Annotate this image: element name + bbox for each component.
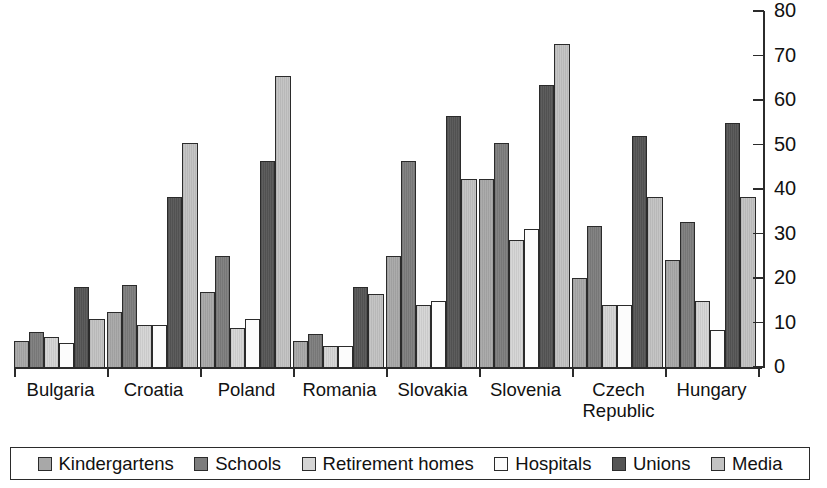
bar [665, 260, 680, 368]
bar [74, 287, 89, 368]
x-axis-category-label: Poland [200, 379, 293, 421]
bar [587, 226, 602, 368]
bar [368, 294, 383, 368]
legend-swatch-icon [302, 457, 316, 471]
bar [182, 143, 197, 368]
legend-swatch-icon [38, 457, 52, 471]
bar [275, 76, 290, 369]
bar [572, 278, 587, 368]
y-axis-tick [753, 366, 764, 368]
bar [461, 179, 476, 368]
y-axis-tick [753, 144, 764, 146]
category-label-line: Slovakia [398, 379, 468, 400]
bar [152, 325, 167, 368]
bar-group [572, 8, 665, 368]
legend-item[interactable]: Unions [612, 454, 691, 474]
y-axis-tick-label: 0 [774, 356, 785, 376]
category-label-line: Slovenia [490, 379, 561, 400]
bar [509, 240, 524, 368]
bar [710, 330, 725, 368]
x-axis-category-label: Slovenia [479, 379, 572, 421]
bar [416, 305, 431, 368]
y-axis-tick-label: 10 [774, 312, 796, 332]
bar [386, 256, 401, 369]
bar-group [293, 8, 386, 368]
bar [323, 346, 338, 369]
bar [245, 319, 260, 369]
y-axis-tick-label: 20 [774, 267, 796, 287]
x-axis-category-label: Croatia [107, 379, 200, 421]
group-tick [386, 368, 388, 377]
bar [725, 123, 740, 368]
category-label-line: Bulgaria [27, 379, 95, 400]
legend-label: Retirement homes [323, 454, 474, 474]
bar-groups-container [14, 8, 758, 368]
bar [167, 197, 182, 368]
legend-item[interactable]: Media [711, 454, 782, 474]
legend-swatch-icon [612, 457, 626, 471]
bar [647, 197, 662, 368]
y-axis-tick-label: 30 [774, 223, 796, 243]
bar [554, 44, 569, 368]
bar [14, 341, 29, 368]
bar [602, 305, 617, 368]
bar [59, 343, 74, 368]
legend-item[interactable]: Retirement homes [302, 454, 474, 474]
x-axis-category-label: Romania [293, 379, 386, 421]
bar [479, 179, 494, 368]
bar [200, 292, 215, 369]
x-axis-category-labels: BulgariaCroatiaPolandRomaniaSlovakiaSlov… [14, 379, 758, 421]
group-tick [665, 368, 667, 377]
legend-label: Schools [215, 454, 281, 474]
y-axis-tick [753, 322, 764, 324]
bar-group [14, 8, 107, 368]
legend-swatch-icon [711, 457, 725, 471]
bar-chart: 01020304050607080 BulgariaCroatiaPolandR… [0, 0, 827, 488]
category-label-line: Romania [302, 379, 376, 400]
bar [107, 312, 122, 368]
chart-legend: KindergartensSchoolsRetirement homesHosp… [10, 447, 810, 480]
bar [695, 301, 710, 369]
legend-label: Kindergartens [59, 454, 174, 474]
bar [446, 116, 461, 368]
category-label-line: Poland [218, 379, 276, 400]
bar [230, 328, 245, 369]
group-tick [14, 368, 16, 377]
category-label-line: Croatia [124, 379, 184, 400]
bar [680, 222, 695, 368]
group-tick [479, 368, 481, 377]
legend-swatch-icon [494, 457, 508, 471]
y-axis-tick-label: 80 [774, 0, 796, 20]
legend-item[interactable]: Kindergartens [38, 454, 174, 474]
y-axis-tick-label: 70 [774, 45, 796, 65]
bar [632, 136, 647, 368]
legend-item[interactable]: Schools [194, 454, 281, 474]
bar [293, 341, 308, 368]
y-axis-tick [753, 188, 764, 190]
bar [89, 319, 104, 369]
bar [260, 161, 275, 368]
legend-swatch-icon [194, 457, 208, 471]
bar-group [665, 8, 758, 368]
y-axis-tick [753, 55, 764, 57]
legend-item[interactable]: Hospitals [494, 454, 591, 474]
y-axis-tick [753, 10, 764, 12]
bar [539, 85, 554, 369]
y-axis-tick-label: 50 [774, 134, 796, 154]
bar [338, 346, 353, 369]
category-label-line: Republic [572, 400, 665, 421]
bar [617, 305, 632, 368]
category-label-line: Hungary [677, 379, 747, 400]
x-axis-category-label: Slovakia [386, 379, 479, 421]
bar [44, 337, 59, 369]
bar [431, 301, 446, 369]
bar-group [479, 8, 572, 368]
group-tick [293, 368, 295, 377]
bar [494, 143, 509, 368]
x-axis-baseline [14, 367, 762, 369]
y-axis-tick [753, 233, 764, 235]
bar [122, 285, 137, 368]
bar [401, 161, 416, 368]
y-axis-tick-label: 40 [774, 178, 796, 198]
bar [524, 229, 539, 369]
